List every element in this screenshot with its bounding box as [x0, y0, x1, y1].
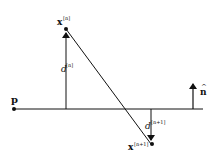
label-dn1: d [n+1]	[145, 119, 166, 131]
svg-text:[n]: [n]	[63, 15, 70, 21]
label-xn: x [n]	[57, 15, 70, 27]
connector-line	[66, 29, 151, 144]
label-dn: d [n]	[61, 62, 73, 74]
label-normal: n ^	[200, 83, 207, 97]
diagram-canvas: p d [n] x [n] d [n+1] x [n+1] n ^	[0, 0, 216, 164]
svg-text:[n]: [n]	[66, 62, 73, 68]
svg-text:[n+1]: [n+1]	[151, 119, 166, 125]
point-xn1	[150, 142, 154, 146]
svg-text:[n+1]: [n+1]	[134, 141, 149, 147]
label-p: p	[11, 94, 18, 105]
svg-text:^: ^	[201, 83, 207, 91]
label-xn1: x [n+1]	[128, 141, 149, 152]
point-p	[12, 107, 16, 111]
